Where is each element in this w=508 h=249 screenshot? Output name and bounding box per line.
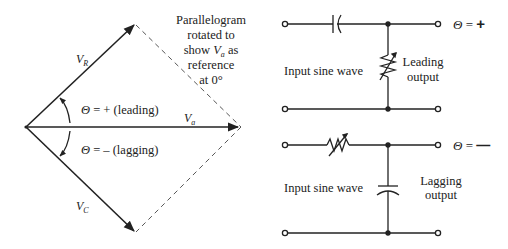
leading-top-junction-dot (386, 22, 390, 26)
leading-input-terminal-bottom (282, 106, 287, 111)
lagging-angle-arc-icon (60, 131, 70, 156)
lagging-top-junction-dot (386, 143, 390, 147)
leading-theta-label: Θ = + (453, 15, 485, 32)
svg-text:show Va as: show Va as (184, 43, 239, 59)
leading-output-terminal-top (435, 21, 440, 26)
lagging-input-terminal-top (282, 142, 287, 147)
lagging-angle-label: Θ = – (lagging) (81, 143, 159, 157)
shunt-variable-resistor-icon (380, 53, 396, 80)
lagging-theta-label: Θ = — (453, 137, 490, 153)
lagging-output-label-line1: Lagging (420, 174, 462, 188)
leading-bottom-junction-dot (386, 107, 390, 111)
leading-output-terminal-bottom (435, 106, 440, 111)
phasor-diagram: VR Va VC Θ = + (leading) Θ = – (lagging)… (24, 13, 246, 232)
parallelogram-note: Parallelogram rotated to show Va as refe… (176, 13, 246, 87)
lagging-input-terminal-bottom (282, 230, 287, 235)
leading-output-label-line2: output (407, 70, 439, 84)
leading-output-label-line1: Leading (403, 55, 445, 69)
vector-va-label: Va (184, 111, 195, 127)
lagging-output-label-line2: output (425, 188, 457, 202)
lagging-input-label: Input sine wave (284, 181, 364, 195)
leading-input-label: Input sine wave (284, 64, 364, 78)
series-variable-resistor-icon (327, 134, 349, 156)
svg-text:Parallelogram: Parallelogram (176, 13, 246, 27)
leading-angle-arc-icon (60, 98, 70, 123)
leading-angle-label: Θ = + (leading) (81, 103, 159, 117)
phasor-origin-dot (24, 125, 27, 128)
leading-input-terminal-top (282, 21, 287, 26)
svg-text:reference: reference (188, 58, 235, 72)
vector-vc-label: VC (76, 199, 89, 215)
vector-vr-label: VR (76, 52, 88, 68)
lagging-output-terminal-bottom (435, 230, 440, 235)
lagging-bottom-junction-dot (386, 231, 390, 235)
lagging-output-terminal-top (435, 142, 440, 147)
svg-text:at 0°: at 0° (199, 73, 222, 87)
svg-text:rotated to: rotated to (187, 28, 235, 42)
